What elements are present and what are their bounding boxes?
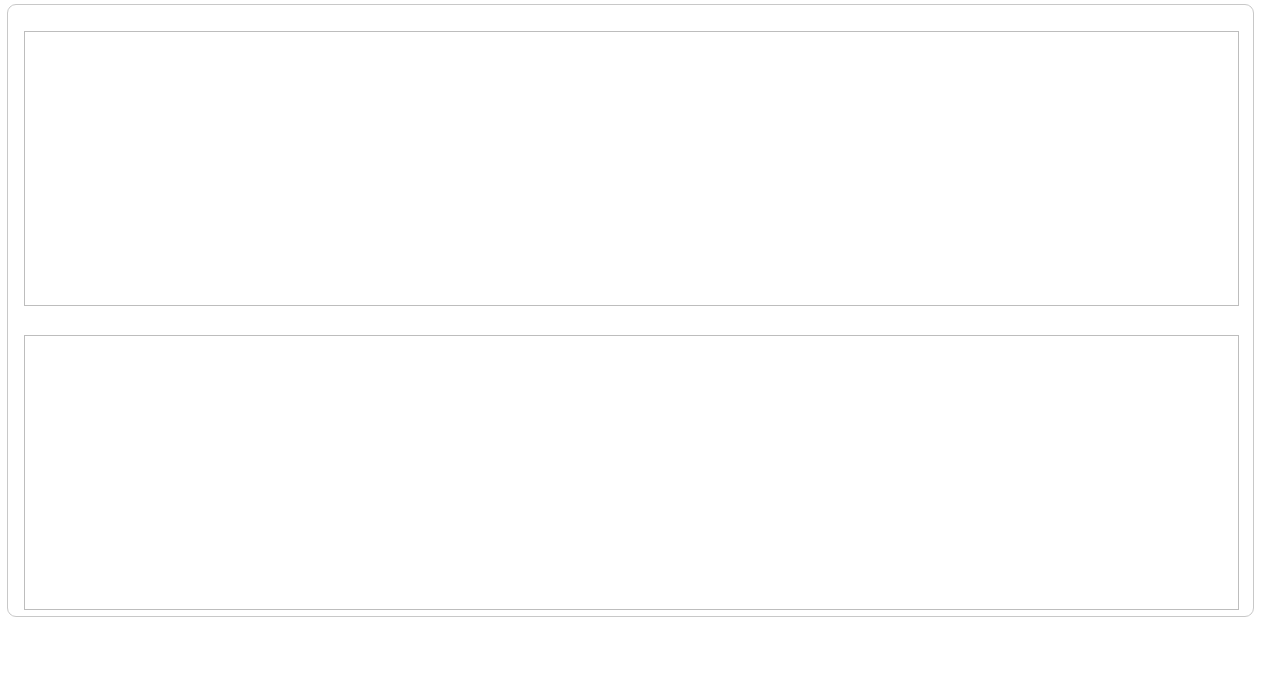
figure-frame <box>7 4 1254 617</box>
panel-row-men <box>24 31 1239 306</box>
panel-row-women <box>24 335 1239 610</box>
